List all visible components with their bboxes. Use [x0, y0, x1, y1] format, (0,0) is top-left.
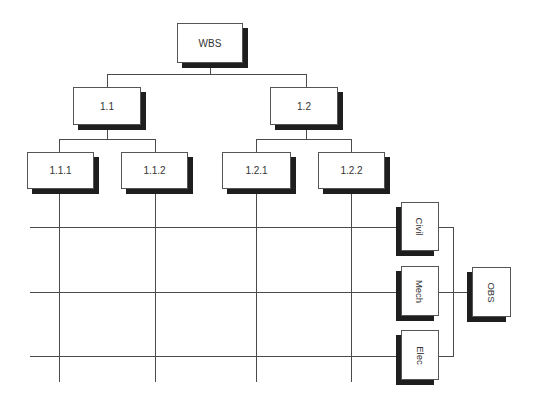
- wbs-node-1-2-label: 1.2: [297, 101, 311, 112]
- connector-1-1-children-bar: [59, 139, 156, 140]
- obs-unit-mech: Mech: [401, 266, 439, 316]
- connector-to-1-1: [107, 74, 108, 87]
- connector-wbs-down: [210, 63, 211, 74]
- matrix-row-elec: [30, 356, 401, 357]
- wbs-root-label: WBS: [199, 38, 222, 49]
- connector-to-1-2-1: [256, 139, 257, 152]
- wbs-node-1-2-1: 1.2.1: [222, 152, 291, 189]
- wbs-node-1-1-1: 1.1.1: [27, 152, 94, 189]
- connector-elec-right: [439, 356, 453, 357]
- matrix-column-1-1-1: [59, 189, 60, 382]
- matrix-column-1-1-2: [155, 189, 156, 382]
- connector-obs-root: [453, 292, 472, 293]
- connector-to-1-2-2: [351, 139, 352, 152]
- matrix-column-1-2-2: [351, 189, 352, 382]
- obs-unit-mech-label: Mech: [414, 279, 425, 302]
- connector-1-2-down: [306, 125, 307, 139]
- obs-unit-civil-label: Civil: [414, 218, 425, 236]
- obs-root-label: OBS: [486, 282, 497, 302]
- wbs-node-1-1-2: 1.1.2: [121, 152, 188, 189]
- obs-unit-civil: Civil: [401, 202, 439, 251]
- connector-1-1-down: [107, 125, 108, 139]
- obs-unit-elec-label: Elec: [414, 346, 425, 364]
- matrix-column-1-2-1: [256, 189, 257, 382]
- wbs-root-node: WBS: [177, 23, 243, 63]
- wbs-node-1-2: 1.2: [270, 87, 338, 125]
- connector-level1-bar: [107, 74, 307, 75]
- obs-unit-elec: Elec: [401, 330, 439, 380]
- connector-to-1-1-1: [59, 139, 60, 152]
- wbs-node-1-1: 1.1: [73, 87, 141, 125]
- wbs-obs-matrix-diagram: WBS 1.1 1.2 1.1.1 1.1.2 1.2.1 1.2.2 Civi…: [0, 0, 539, 404]
- obs-root-node: OBS: [472, 267, 511, 317]
- matrix-row-mech: [30, 292, 401, 293]
- connector-1-2-children-bar: [256, 139, 352, 140]
- wbs-node-1-2-1-label: 1.2.1: [245, 165, 267, 176]
- connector-to-1-1-2: [155, 139, 156, 152]
- wbs-node-1-1-1-label: 1.1.1: [49, 165, 71, 176]
- connector-civil-right: [439, 227, 453, 228]
- wbs-node-1-1-label: 1.1: [100, 101, 114, 112]
- connector-to-1-2: [306, 74, 307, 87]
- connector-mech-right: [439, 292, 453, 293]
- wbs-node-1-2-2-label: 1.2.2: [340, 165, 362, 176]
- wbs-node-1-1-2-label: 1.1.2: [143, 165, 165, 176]
- matrix-row-civil: [30, 227, 401, 228]
- wbs-node-1-2-2: 1.2.2: [318, 152, 385, 189]
